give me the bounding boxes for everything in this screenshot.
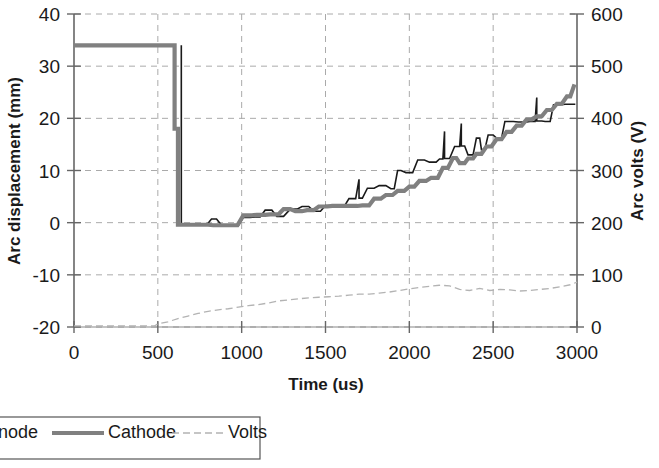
- x-axis-title: Time (us): [288, 375, 363, 394]
- tick-label-right: 200: [591, 213, 623, 234]
- legend-label-anode: Anode: [0, 422, 38, 442]
- tick-label-bottom: 2000: [388, 342, 430, 363]
- tick-label-left: 40: [39, 4, 60, 25]
- tick-label-bottom: 1000: [221, 342, 263, 363]
- tick-label-right: 100: [591, 265, 623, 286]
- tick-label-left: -10: [33, 265, 60, 286]
- figure-background: [0, 0, 659, 468]
- tick-label-right: 400: [591, 108, 623, 129]
- chart-legend: AnodeCathodeVolts: [0, 417, 267, 459]
- legend-label-cathode: Cathode: [108, 422, 176, 442]
- tick-label-bottom: 500: [142, 342, 174, 363]
- tick-label-left: 0: [49, 213, 60, 234]
- y2-axis-title: Arc volts (V): [628, 121, 647, 221]
- tick-label-bottom: 3000: [556, 342, 598, 363]
- tick-label-left: 10: [39, 161, 60, 182]
- tick-label-left: 30: [39, 56, 60, 77]
- tick-label-bottom: 2500: [472, 342, 514, 363]
- tick-label-right: 0: [591, 317, 602, 338]
- y-axis-title: Arc displacement (mm): [5, 77, 24, 265]
- legend-label-volts: Volts: [228, 422, 267, 442]
- tick-label-left: -20: [33, 317, 60, 338]
- tick-label-left: 20: [39, 108, 60, 129]
- tick-label-right: 300: [591, 161, 623, 182]
- tick-label-right: 600: [591, 4, 623, 25]
- tick-label-bottom: 0: [69, 342, 80, 363]
- tick-label-right: 500: [591, 56, 623, 77]
- tick-label-bottom: 1500: [304, 342, 346, 363]
- arc-displacement-chart: -20-10010203040 0100200300400500600 0500…: [0, 0, 659, 468]
